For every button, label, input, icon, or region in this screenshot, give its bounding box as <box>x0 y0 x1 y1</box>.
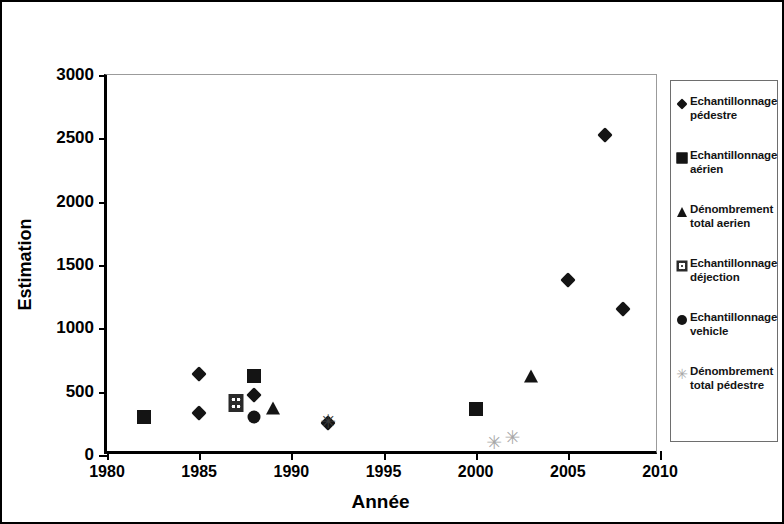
y-tick-label-3000: 3000 <box>56 65 94 85</box>
data-point-s2-p1 <box>524 369 538 382</box>
legend-label-line1-1: Echantillonnage <box>690 149 777 163</box>
y-tick-2500 <box>99 138 107 140</box>
marker-triangle <box>677 207 687 217</box>
x-tick-2010 <box>660 451 662 460</box>
legend-item-2: Dénombrementtotal aerien <box>675 203 774 233</box>
y-axis-title-text: Estimation <box>15 218 36 310</box>
legend-label-line1-0: Echantillonnage <box>690 95 777 109</box>
x-tick-label-2000: 2000 <box>458 463 494 481</box>
legend-item-3: Echantillonnagedéjection <box>675 257 774 287</box>
data-point-s2-p0 <box>266 401 280 414</box>
data-point-s4-p0 <box>248 411 261 424</box>
marker-asterisk: ✳ <box>674 366 690 382</box>
data-points-layer: ✳✳✳ <box>107 75 656 451</box>
legend-item-1: Echantillonnageaérien <box>675 149 774 179</box>
legend-label-0: Echantillonnagepédestre <box>690 95 777 122</box>
legend-label-1: Echantillonnageaérien <box>690 149 777 176</box>
data-point-s0-p4 <box>560 272 576 288</box>
legend-item-0: Echantillonnagepédestre <box>675 95 774 125</box>
legend-marker-triangle <box>675 204 689 219</box>
y-tick-0 <box>99 455 107 457</box>
x-axis-title: Année <box>104 491 657 513</box>
marker-circle <box>677 315 687 325</box>
legend-label-line2-2: total aerien <box>690 217 773 231</box>
y-tick-label-0: 0 <box>85 445 94 465</box>
x-tick-1985 <box>199 451 201 460</box>
legend-label-line2-0: pédestre <box>690 109 777 123</box>
data-point-s0-p1 <box>191 405 207 421</box>
y-tick-label-1000: 1000 <box>56 318 94 338</box>
legend-label-line1-2: Dénombrement <box>690 203 773 217</box>
x-tick-label-2010: 2010 <box>642 463 678 481</box>
data-point-s0-p0 <box>191 366 207 382</box>
y-tick-1000 <box>99 328 107 330</box>
legend-marker-square <box>675 150 689 165</box>
marker-square <box>677 153 688 164</box>
y-tick-500 <box>99 392 107 394</box>
legend-label-line2-4: vehicle <box>690 325 777 339</box>
plot-area: 050010001500200025003000 198019851990199… <box>104 74 657 454</box>
data-point-s0-p5 <box>597 127 613 143</box>
data-point-s1-p2 <box>469 402 483 416</box>
x-tick-label-1995: 1995 <box>366 463 402 481</box>
data-point-s3-p0 <box>229 394 244 412</box>
y-tick-label-2000: 2000 <box>56 192 94 212</box>
data-point-s1-p0 <box>137 410 151 424</box>
x-tick-label-2005: 2005 <box>550 463 586 481</box>
legend-item-4: Echantillonnagevehicle <box>675 311 774 341</box>
x-tick-label-1980: 1980 <box>89 463 125 481</box>
y-tick-3000 <box>99 75 107 77</box>
x-tick-2000 <box>476 451 478 460</box>
legend-label-2: Dénombrementtotal aerien <box>690 203 773 230</box>
y-axis-title: Estimation <box>12 74 38 454</box>
legend-marker-circle <box>675 312 689 327</box>
legend-label-4: Echantillonnagevehicle <box>690 311 777 338</box>
legend-label-3: Echantillonnagedéjection <box>690 257 777 284</box>
y-tick-1500 <box>99 265 107 267</box>
legend-marker-dotted-square <box>675 258 689 273</box>
x-tick-1990 <box>291 451 293 460</box>
data-point-s1-p1 <box>247 369 261 383</box>
legend-label-line1-3: Echantillonnage <box>690 257 777 271</box>
data-point-s0-p6 <box>615 302 631 318</box>
y-tick-label-1500: 1500 <box>56 255 94 275</box>
legend-label-line1-4: Echantillonnage <box>690 311 777 325</box>
y-tick-label-2500: 2500 <box>56 128 94 148</box>
x-tick-label-1985: 1985 <box>181 463 217 481</box>
x-tick-1995 <box>384 451 386 460</box>
data-point-s5-p0: ✳ <box>320 413 336 429</box>
data-point-s5-p2: ✳ <box>505 429 521 445</box>
data-point-s5-p1: ✳ <box>486 434 502 450</box>
legend-label-line1-5: Dénombrement <box>690 365 773 379</box>
chart-figure: Estimation 050010001500200025003000 1980… <box>0 0 784 524</box>
legend-marker-diamond <box>675 96 689 111</box>
legend-label-5: Dénombrementtotal pédestre <box>690 365 773 392</box>
legend-marker-asterisk: ✳ <box>675 366 689 381</box>
x-tick-1980 <box>107 451 109 460</box>
y-tick-2000 <box>99 202 107 204</box>
marker-diamond <box>676 98 687 109</box>
x-tick-label-1990: 1990 <box>274 463 310 481</box>
legend-item-5: ✳Dénombrementtotal pédestre <box>675 365 774 395</box>
legend-label-line2-3: déjection <box>690 271 777 285</box>
x-tick-2005 <box>568 451 570 460</box>
legend-label-line2-1: aérien <box>690 163 777 177</box>
data-point-s0-p2 <box>247 387 263 403</box>
y-tick-label-500: 500 <box>66 382 94 402</box>
chart-legend: EchantillonnagepédestreEchantillonnageaé… <box>670 80 778 442</box>
marker-dotted-square <box>677 261 688 272</box>
legend-label-line2-5: total pédestre <box>690 379 773 393</box>
